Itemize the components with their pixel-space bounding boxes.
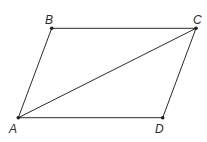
vertex-point-C	[194, 27, 198, 31]
parallelogram-diagram: ABCD	[0, 0, 207, 142]
edges	[18, 28, 196, 117]
vertex-point-B	[50, 27, 54, 31]
vertex-label-D: D	[155, 122, 164, 136]
vertex-label-B: B	[45, 13, 53, 27]
edge-AB	[18, 28, 51, 117]
vertex-point-A	[17, 116, 21, 120]
vertex-label-A: A	[8, 122, 17, 136]
diagonal-AC	[18, 28, 196, 117]
vertex-point-D	[161, 116, 165, 120]
vertex-label-C: C	[193, 13, 202, 27]
edge-CD	[163, 28, 196, 117]
